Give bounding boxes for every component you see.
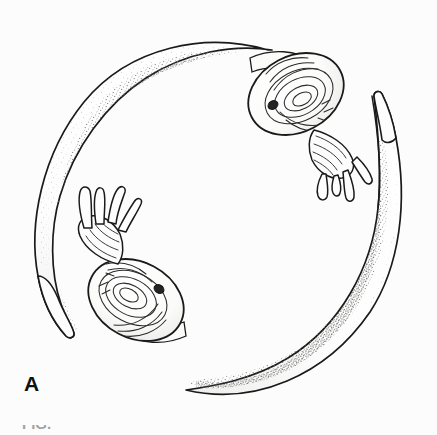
slug-b-tentacle-2	[95, 188, 105, 224]
slug-a-tentacle-2	[332, 175, 341, 196]
figure-caption-partial: FIG.	[22, 425, 51, 431]
panel-label-a: A	[24, 373, 40, 394]
figure-background	[0, 0, 437, 435]
caption-clip: FIG.	[22, 425, 322, 435]
slug-pair-illustration	[0, 0, 437, 435]
figure-page: A FIG.	[0, 0, 437, 435]
